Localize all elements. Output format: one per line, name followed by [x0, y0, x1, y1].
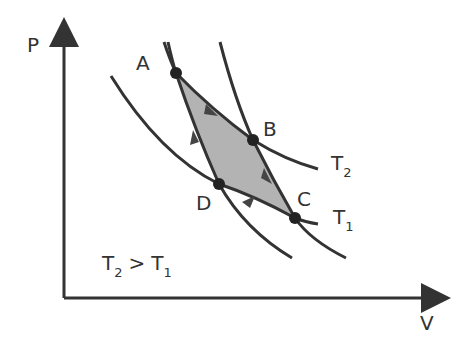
- point-b: [247, 134, 259, 146]
- arrow-cd-icon: [242, 196, 255, 208]
- label-d: D: [196, 191, 211, 215]
- label-t2: T2: [330, 151, 352, 180]
- label-b: B: [263, 117, 277, 141]
- y-axis-label: P: [27, 33, 39, 57]
- point-c: [289, 212, 301, 224]
- point-d: [213, 178, 225, 190]
- point-a: [170, 67, 182, 79]
- x-axis-label: V: [420, 311, 434, 335]
- condition-label: T2>T1: [101, 251, 172, 280]
- carnot-diagram: P V A B C D T2 T1 T2>T1: [0, 0, 468, 344]
- label-a: A: [136, 51, 150, 75]
- label-t1: T1: [332, 205, 354, 234]
- label-c: C: [297, 187, 311, 211]
